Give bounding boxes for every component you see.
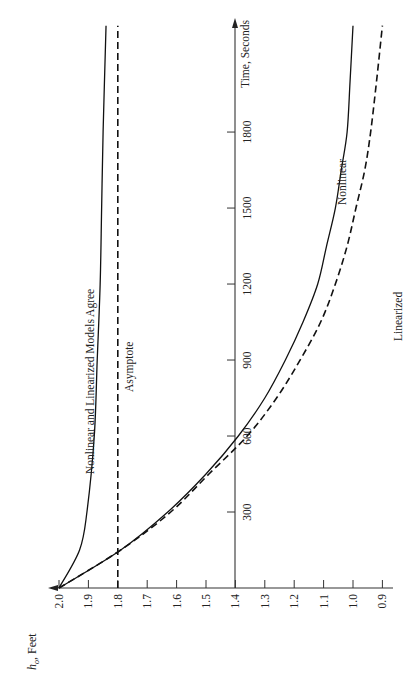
h-tick-label: 1.2 xyxy=(288,594,300,609)
curves xyxy=(59,26,382,588)
h-tick-label: 1.4 xyxy=(229,594,241,609)
chart: 2.01.91.81.71.61.51.41.31.21.11.00.9 300… xyxy=(0,0,413,678)
time-tick-label: 300 xyxy=(241,503,253,521)
h-axis-ticks: 2.01.91.81.71.61.51.41.31.21.11.00.9 xyxy=(53,580,388,608)
h-tick-label: 1.1 xyxy=(318,594,330,609)
h-tick-label: 1.6 xyxy=(171,594,183,609)
h-tick-label: 1.8 xyxy=(112,594,124,609)
time-tick-label: 1200 xyxy=(241,272,253,295)
h-tick-label: 1.3 xyxy=(259,594,271,609)
h-tick-label: 0.9 xyxy=(376,594,388,609)
h-tick-label: 1.7 xyxy=(141,594,153,609)
h-tick-label: 1.0 xyxy=(347,594,359,609)
time-tick-label: 900 xyxy=(241,351,253,369)
time-tick-label: 1800 xyxy=(241,120,253,143)
h-tick-label: 2.0 xyxy=(53,594,65,609)
linearized-curve xyxy=(59,26,382,588)
axes xyxy=(56,26,393,588)
h-tick-label: 1.5 xyxy=(200,594,212,609)
linearized-annotation: Linearized xyxy=(392,292,404,341)
time-axis-ticks: 300600900120015001800 xyxy=(227,120,253,520)
h-tick-label: 1.9 xyxy=(82,594,94,609)
agree-annotation: Nonlinear and Linearized Models Agree xyxy=(84,289,97,474)
nonlinear-annotation: Nonlinear xyxy=(336,159,348,205)
h-axis-arrow-icon xyxy=(48,585,58,591)
time-axis-label: Time, Seconds xyxy=(239,19,252,87)
time-tick-label: 1500 xyxy=(241,196,253,219)
time-axis-arrow-icon xyxy=(232,18,238,28)
asymptote-annotation: Asymptote xyxy=(123,342,136,392)
h-axis-label: ho, Feet xyxy=(25,633,41,670)
agree-curve xyxy=(59,26,106,588)
